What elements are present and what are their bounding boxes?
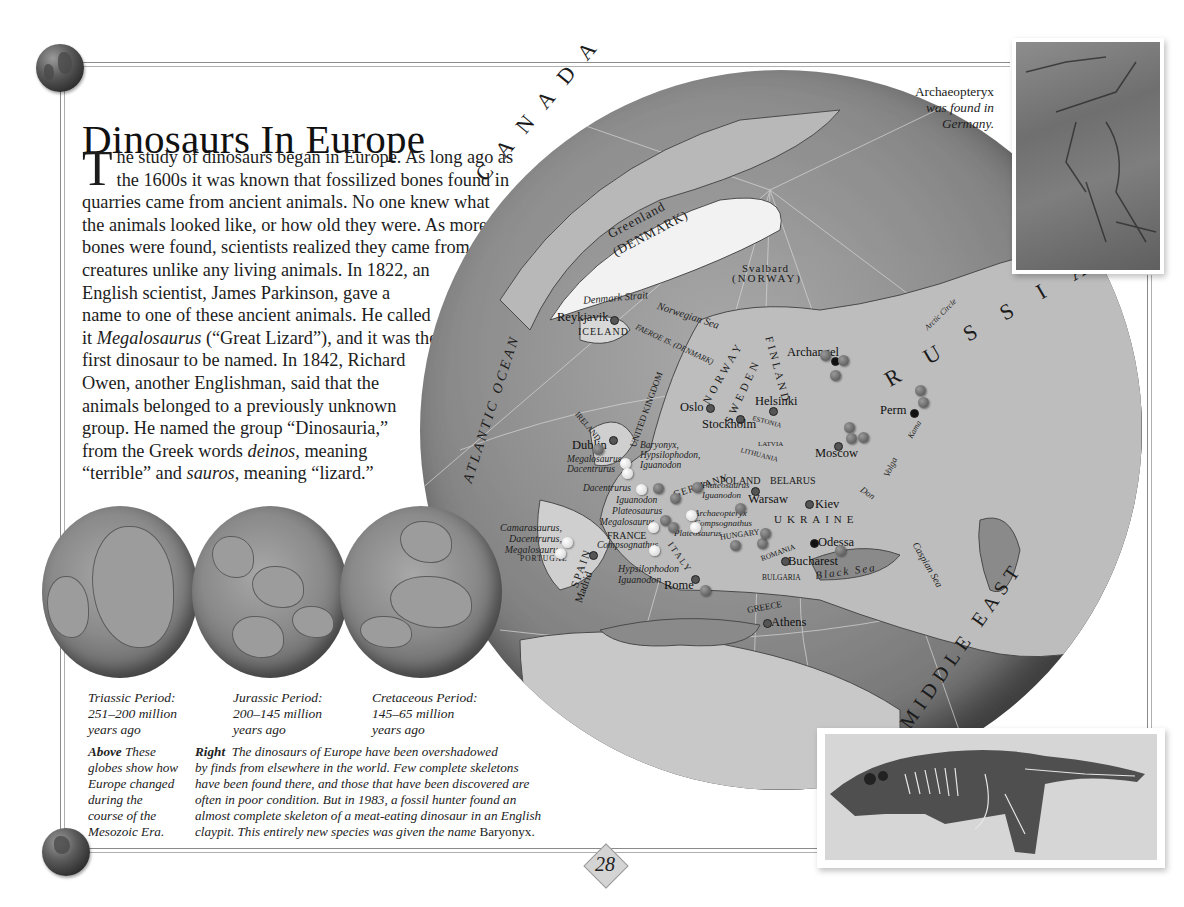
fossil-site-marker bbox=[918, 397, 929, 408]
dino-name: Hypsilophodon bbox=[618, 563, 679, 574]
city-archangel: Archangel bbox=[787, 345, 839, 360]
fossil-site-marker bbox=[593, 444, 604, 455]
city-oslo: Oslo bbox=[680, 400, 704, 415]
fossil-site-marker bbox=[760, 528, 771, 539]
city-dot bbox=[589, 551, 598, 560]
finds-spain: Hypsilophodon Iguanodon bbox=[618, 563, 679, 585]
caption-species: Archaeopteryx bbox=[915, 84, 994, 100]
fossil-sketch bbox=[1016, 42, 1160, 270]
caption-text: These bbox=[125, 744, 156, 759]
map-label-belarus: BELARUS bbox=[770, 475, 816, 486]
caption-line: almost complete skeleton of a meat-eatin… bbox=[195, 808, 541, 824]
city-dot bbox=[706, 404, 715, 413]
period-name: Jurassic Period: bbox=[233, 690, 323, 706]
dino-name: Iguanodon bbox=[702, 490, 750, 500]
period-range: 200–145 million bbox=[233, 706, 323, 722]
city-dot bbox=[910, 409, 919, 418]
left-frame-rule-inner bbox=[64, 66, 65, 852]
city-athens: Athens bbox=[771, 615, 806, 630]
caption-line: Above These bbox=[88, 744, 178, 760]
page-number: 28 bbox=[583, 853, 627, 876]
city-kiev: Kiev bbox=[815, 497, 839, 512]
dino-name: Plateosaurus bbox=[674, 528, 752, 538]
finds-uk: Baryonyx, Hypsilophodon, Iguanodon bbox=[640, 440, 700, 470]
fossil-site-marker bbox=[858, 432, 869, 443]
fossil-site-marker bbox=[555, 548, 566, 559]
fossil-site-marker bbox=[838, 355, 849, 366]
map-label-iceland: ICELAND bbox=[578, 326, 629, 337]
dino-name: Iguanodon bbox=[618, 574, 679, 585]
caption-lead: Right bbox=[195, 744, 225, 759]
dino-name: Camarasaurus, bbox=[500, 522, 562, 533]
fossil-site-marker bbox=[700, 585, 711, 596]
triassic-globe bbox=[42, 506, 198, 678]
caption-text: was found in bbox=[915, 100, 994, 116]
left-frame-rule bbox=[60, 62, 61, 852]
city-stockholm: Stockholm bbox=[702, 417, 756, 432]
archaeopteryx-caption: Archaeopteryx was found in Germany. bbox=[915, 84, 994, 132]
caption-line: Right The dinosaurs of Europe have been … bbox=[195, 744, 541, 760]
fossil-site-marker bbox=[670, 493, 681, 504]
caption-text: claypit. This entirely new species was g… bbox=[195, 824, 476, 839]
city-helsinki: Helsinki bbox=[755, 394, 797, 409]
fossil-site-marker bbox=[562, 537, 573, 548]
archaeopteryx-image bbox=[1016, 42, 1160, 270]
caption-jurassic: Jurassic Period: 200–145 million years a… bbox=[233, 690, 323, 738]
finds-uk-west: Megalosaurus, Dacentrurus bbox=[567, 454, 624, 474]
caption-right: Right The dinosaurs of Europe have been … bbox=[195, 744, 541, 841]
dino-name: Iguanodon bbox=[616, 495, 662, 506]
top-frame-rule bbox=[60, 62, 1010, 63]
greek-word: sauros, bbox=[187, 463, 240, 483]
city-bucharest: Bucharest bbox=[788, 554, 838, 569]
dino-name: Baryonyx, bbox=[640, 440, 700, 450]
fossil-site-marker bbox=[846, 433, 857, 444]
corner-globe-icon-bottom bbox=[42, 828, 90, 876]
city-dot bbox=[610, 316, 619, 325]
dino-name: Compsognathus bbox=[694, 518, 752, 528]
city-perm: Perm bbox=[880, 403, 906, 418]
top-frame-rule-inner bbox=[60, 66, 1010, 67]
city-warsaw: Warsaw bbox=[748, 492, 788, 507]
species-name: Baryonyx. bbox=[479, 824, 534, 839]
baryonyx-image bbox=[825, 734, 1157, 860]
fossil-site-marker bbox=[653, 483, 664, 494]
fossil-site-marker bbox=[820, 350, 831, 361]
greek-word: deinos, bbox=[248, 441, 300, 461]
fossil-site-marker bbox=[844, 422, 855, 433]
fossil-site-marker bbox=[622, 468, 633, 479]
finds-germany: Plateosaurus Iguanodon bbox=[702, 480, 750, 500]
text: meaning “lizard.” bbox=[239, 463, 374, 483]
fossil-site-marker bbox=[757, 538, 768, 549]
corner-globe-icon-top bbox=[36, 44, 84, 92]
caption-line: Europe changed bbox=[88, 776, 178, 792]
fossil-site-marker bbox=[648, 522, 659, 533]
fossil-site-marker bbox=[692, 482, 703, 493]
bottom-frame-rule-inner bbox=[60, 852, 820, 853]
period-name: Triassic Period: bbox=[88, 690, 177, 706]
city-dot bbox=[609, 436, 618, 445]
fossil-site-marker bbox=[636, 484, 647, 495]
map-label-svalbard-country: (NORWAY) bbox=[732, 272, 802, 284]
fossil-site-marker bbox=[686, 510, 697, 521]
bottom-frame-rule bbox=[60, 848, 820, 849]
species-name: Megalosaurus bbox=[97, 328, 202, 348]
fossil-site-marker bbox=[668, 522, 679, 533]
caption-line: by finds from elsewhere in the world. Fe… bbox=[195, 760, 541, 776]
caption-text: Germany. bbox=[915, 116, 994, 132]
map-label-latvia: LATVIA bbox=[758, 440, 783, 448]
caption-triassic: Triassic Period: 251–200 million years a… bbox=[88, 690, 177, 738]
city-dot bbox=[805, 500, 814, 509]
text: (“Great Lizard”), and it was the bbox=[201, 328, 437, 348]
caption-text: The dinosaurs of Europe have been oversh… bbox=[232, 744, 498, 759]
map-label-ukraine: UKRAINE bbox=[774, 513, 859, 525]
page-number-badge: 28 bbox=[583, 843, 627, 887]
text: “terrible” and bbox=[82, 463, 187, 483]
dino-name: Plateosaurus bbox=[702, 480, 750, 490]
period-range: 145–65 million bbox=[372, 706, 478, 722]
caption-above: Above These globes show how Europe chang… bbox=[88, 744, 178, 841]
dino-name: Megalosaurus, bbox=[567, 454, 624, 464]
drop-cap: T bbox=[82, 148, 113, 188]
caption-cretaceous: Cretaceous Period: 145–65 million years … bbox=[372, 690, 478, 738]
baryonyx-skeleton-photo bbox=[817, 728, 1165, 868]
dino-name: Hypsilophodon, bbox=[640, 450, 700, 460]
